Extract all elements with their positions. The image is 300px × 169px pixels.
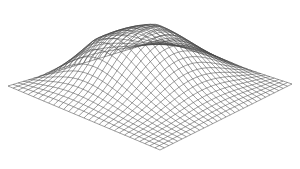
mesh-line [33, 77, 182, 139]
mesh-line [13, 84, 164, 147]
mesh-line [69, 25, 213, 112]
mesh-line [8, 86, 160, 150]
mesh-line [155, 83, 288, 148]
mesh-line [38, 71, 186, 137]
mesh-line [54, 25, 200, 106]
mesh-line [99, 51, 239, 125]
mesh-lines-v [8, 24, 292, 150]
wireframe-surface-plot [0, 0, 300, 169]
